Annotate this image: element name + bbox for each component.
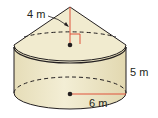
cylinder-height-label: 5 m [130,67,148,78]
radius-label: 6 m [89,98,107,109]
top-center-dot [68,43,73,48]
bottom-center-dot [68,92,73,97]
cone-cylinder-figure [0,0,158,118]
cone-height-label: 4 m [27,9,45,20]
